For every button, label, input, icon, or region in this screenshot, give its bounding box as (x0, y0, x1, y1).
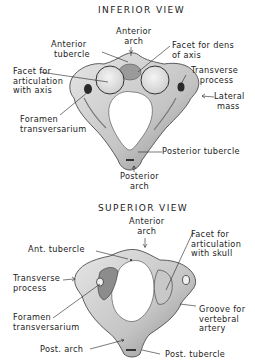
label-inferior-anterior-tubercle: Anterior tubercle (51, 40, 90, 59)
label-posterior-tubercle: Posterior tubercle (162, 147, 240, 157)
label-inferior-transverse-process: Transverse process (191, 66, 238, 85)
label-inferior-foramen-transversarium: Foramen transversarium (20, 115, 87, 134)
label-ant-tubercle: Ant. tubercle (28, 245, 85, 255)
label-post-tubercle: Post. tubercle (165, 350, 225, 360)
label-inferior-anterior-arch: Anterior arch (116, 27, 151, 46)
label-posterior-arch: Posterior arch (120, 172, 159, 191)
label-facet-for-dens: Facet for dens of axis (172, 41, 234, 60)
label-facet-articulation-skull: Facet for articulation with skull (191, 230, 241, 259)
label-superior-transverse-process: Transverse process (13, 274, 60, 293)
label-facet-articulation-axis: Facet for articulation with axis (13, 67, 63, 96)
label-groove-vertebral-artery: Groove for vertebral artery (199, 305, 245, 334)
label-lateral-mass: Lateral mass (214, 92, 245, 111)
label-superior-foramen-transversarium: Foramen transversarium (13, 313, 80, 332)
label-post-arch: Post. arch (40, 345, 83, 355)
superior-view-title: SUPERIOR VIEW (98, 203, 188, 213)
label-superior-anterior-arch: Anterior arch (129, 217, 164, 236)
